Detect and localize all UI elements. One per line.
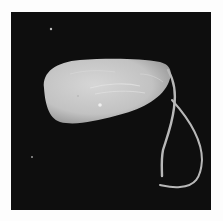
debris-speck [50, 28, 52, 30]
flagella [160, 70, 202, 187]
cell-body [44, 59, 171, 124]
surface-pore [98, 103, 102, 107]
debris-speck [31, 156, 33, 158]
flagellum-outer [160, 100, 202, 187]
micrograph [0, 0, 223, 221]
